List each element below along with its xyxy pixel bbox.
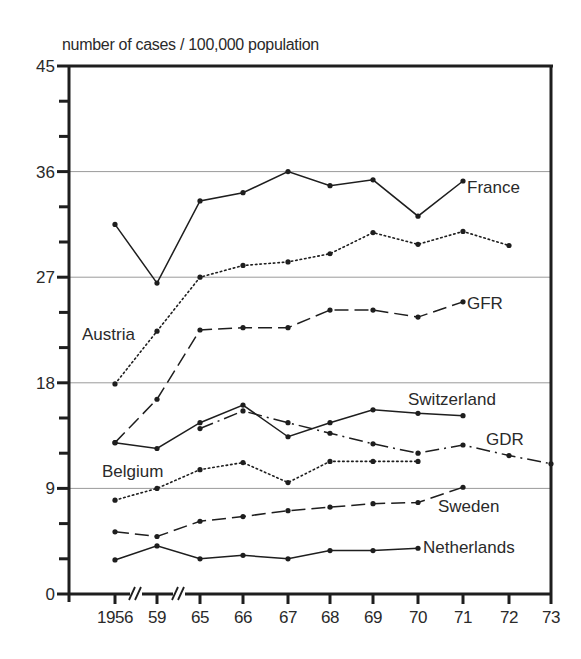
x-tick-label: 73: [542, 608, 560, 627]
data-point: [460, 299, 465, 304]
data-point: [285, 508, 290, 513]
data-point: [327, 307, 332, 312]
x-tick-label: 67: [279, 608, 297, 627]
data-point: [197, 426, 202, 431]
data-point: [154, 486, 159, 491]
data-point: [197, 327, 202, 332]
data-point: [370, 459, 375, 464]
series-label-austria: Austria: [82, 325, 135, 344]
data-point: [154, 534, 159, 539]
series-switzerland: [112, 402, 465, 451]
series-line: [115, 405, 463, 448]
data-point: [460, 229, 465, 234]
data-point: [112, 498, 117, 503]
series-label-gdr: GDR: [486, 430, 524, 449]
data-point: [327, 431, 332, 436]
y-tick-label: 18: [36, 374, 55, 393]
data-point: [415, 459, 420, 464]
data-point: [240, 408, 245, 413]
data-point: [327, 505, 332, 510]
x-tick-label: 70: [409, 608, 427, 627]
data-point: [506, 243, 511, 248]
series-label-belgium: Belgium: [102, 462, 163, 481]
data-point: [240, 263, 245, 268]
y-axis-label: number of cases / 100,000 population: [62, 36, 319, 54]
data-point: [460, 485, 465, 490]
data-point: [112, 222, 117, 227]
data-point: [415, 314, 420, 319]
data-point: [285, 259, 290, 264]
data-point: [370, 307, 375, 312]
data-point: [285, 169, 290, 174]
data-point: [154, 280, 159, 285]
data-point: [370, 407, 375, 412]
data-point: [197, 275, 202, 280]
data-point: [112, 440, 117, 445]
data-point: [285, 556, 290, 561]
data-point: [415, 451, 420, 456]
chart-container: number of cases / 100,000 population 091…: [0, 0, 581, 659]
data-point: [197, 467, 202, 472]
x-tick-label: 68: [321, 608, 339, 627]
data-point: [415, 500, 420, 505]
data-point: [327, 548, 332, 553]
x-tick-label: 59: [148, 608, 166, 627]
series-line: [115, 172, 463, 283]
data-point: [112, 557, 117, 562]
data-point: [327, 420, 332, 425]
data-point: [240, 190, 245, 195]
data-point: [460, 413, 465, 418]
data-point: [197, 519, 202, 524]
series-label-netherlands: Netherlands: [423, 538, 515, 557]
data-point: [370, 548, 375, 553]
y-tick-label: 27: [36, 268, 55, 287]
data-point: [285, 480, 290, 485]
data-point: [370, 230, 375, 235]
series-label-sweden: Sweden: [438, 497, 499, 516]
data-point: [285, 420, 290, 425]
data-point: [415, 214, 420, 219]
data-point: [240, 553, 245, 558]
data-point: [240, 402, 245, 407]
data-point: [154, 446, 159, 451]
y-tick-label: 9: [46, 479, 55, 498]
series-line: [115, 231, 509, 384]
data-point: [197, 420, 202, 425]
data-point: [370, 177, 375, 182]
y-tick-label: 0: [46, 585, 55, 604]
data-point: [197, 556, 202, 561]
data-point: [370, 441, 375, 446]
data-point: [154, 543, 159, 548]
line-chart: 0918273645195659656667686970717273France…: [0, 0, 581, 659]
data-point: [415, 411, 420, 416]
x-tick-label: 66: [234, 608, 252, 627]
x-tick-label: 69: [364, 608, 382, 627]
series-label-gfr: GFR: [467, 294, 503, 313]
data-point: [197, 198, 202, 203]
data-point: [460, 442, 465, 447]
series-france: [112, 169, 465, 286]
data-point: [240, 460, 245, 465]
series-label-france: France: [467, 178, 520, 197]
data-point: [415, 546, 420, 551]
data-point: [112, 529, 117, 534]
x-tick-label: 71: [454, 608, 472, 627]
data-point: [285, 325, 290, 330]
data-point: [285, 434, 290, 439]
series-label-switzerland: Switzerland: [408, 390, 496, 409]
data-point: [460, 178, 465, 183]
x-tick-label: 72: [500, 608, 518, 627]
series-netherlands: [112, 543, 420, 562]
data-point: [240, 325, 245, 330]
x-tick-label: 65: [191, 608, 209, 627]
x-tick-label: 1956: [97, 608, 133, 627]
y-tick-label: 45: [36, 57, 55, 76]
data-point: [327, 251, 332, 256]
data-point: [370, 501, 375, 506]
data-point: [240, 514, 245, 519]
data-point: [327, 459, 332, 464]
data-point: [154, 397, 159, 402]
data-point: [548, 461, 553, 466]
data-point: [112, 381, 117, 386]
data-point: [154, 329, 159, 334]
